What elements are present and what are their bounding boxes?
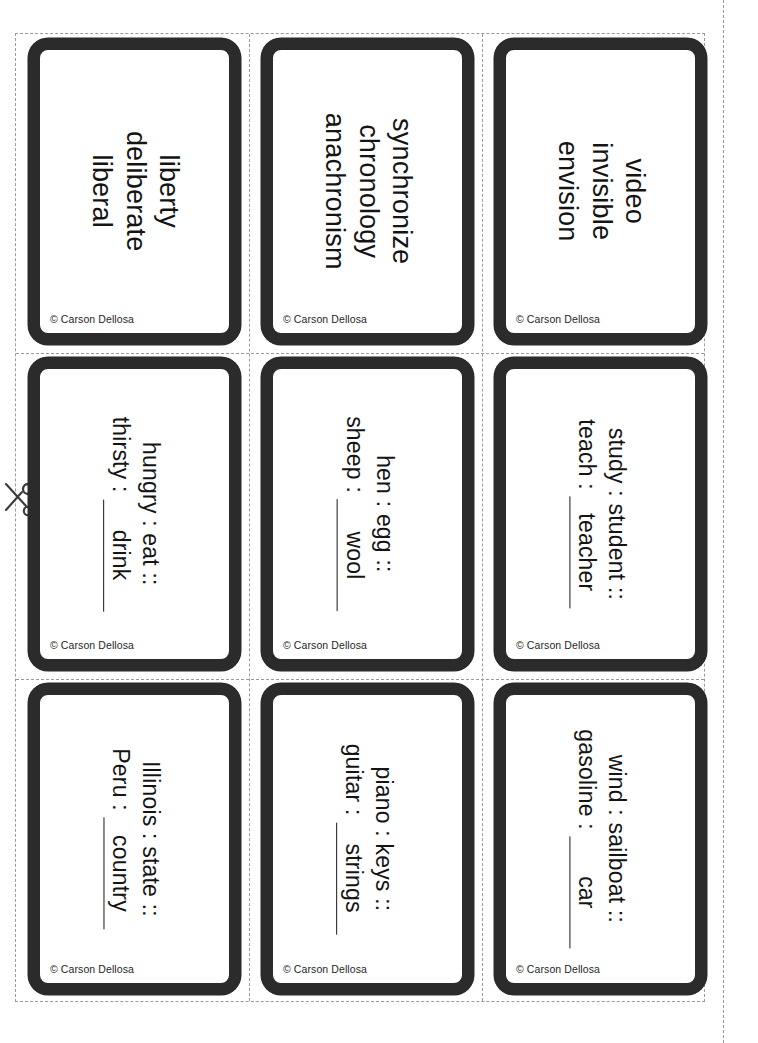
card-cell: liberty deliberate liberal © Carson Dell… bbox=[15, 33, 248, 352]
card-cell: synchronize chronology anachronism © Car… bbox=[248, 33, 481, 352]
analogy-prompt: gasoline : bbox=[575, 729, 601, 829]
flash-card-1[interactable]: liberty deliberate liberal © Carson Dell… bbox=[28, 38, 241, 345]
card-line: deliberate bbox=[118, 131, 151, 252]
analogy-line-1: study : student :: bbox=[602, 419, 632, 608]
copyright-credit: © Carson Dellosa bbox=[516, 313, 600, 325]
analogy-answer-blank[interactable]: teacher bbox=[570, 497, 602, 609]
analogy-answer-blank[interactable]: strings bbox=[337, 822, 369, 934]
flash-card-9[interactable]: wind : sailboat :: gasoline : car © Cars… bbox=[494, 683, 707, 995]
card-cell: hungry : eat :: thirsty : drink © Carson… bbox=[15, 352, 248, 678]
flash-card-sheet: liberty deliberate liberal © Carson Dell… bbox=[0, 0, 758, 1043]
analogy-line-2: Peru : country bbox=[104, 748, 136, 929]
analogy-line-2: guitar : strings bbox=[337, 744, 369, 935]
analogy-answer-blank[interactable]: drink bbox=[104, 499, 136, 611]
analogy-prompt: thirsty : bbox=[109, 417, 135, 493]
analogy-prompt: sheep : bbox=[342, 416, 368, 493]
card-line: video bbox=[617, 141, 650, 242]
card-text-block: video invisible envision bbox=[506, 50, 695, 333]
card-line: chronology bbox=[351, 113, 384, 270]
analogy-line-1: hungry : eat :: bbox=[136, 417, 166, 612]
copyright-credit: © Carson Dellosa bbox=[283, 313, 367, 325]
analogy-prompt: guitar : bbox=[342, 744, 368, 816]
card-cell: video invisible envision © Carson Dellos… bbox=[481, 33, 714, 352]
copyright-credit: © Carson Dellosa bbox=[516, 963, 600, 975]
card-text-block: hungry : eat :: thirsty : drink bbox=[40, 369, 229, 659]
copyright-credit: © Carson Dellosa bbox=[50, 313, 134, 325]
card-line: liberal bbox=[84, 131, 117, 252]
analogy-line-1: hen : egg :: bbox=[369, 416, 399, 611]
card-cell: wind : sailboat :: gasoline : car © Cars… bbox=[481, 678, 714, 1002]
margin-fold-line bbox=[723, 0, 724, 1043]
flash-card-7[interactable]: Illinois : state :: Peru : country © Car… bbox=[28, 683, 241, 995]
flash-card-8[interactable]: piano : keys :: guitar : strings © Carso… bbox=[261, 683, 474, 995]
card-cell: study : student :: teach : teacher © Car… bbox=[481, 352, 714, 678]
analogy-line-1: piano : keys :: bbox=[369, 744, 399, 935]
card-cell: hen : egg :: sheep : wool © Carson Dello… bbox=[248, 352, 481, 678]
flash-card-3[interactable]: video invisible envision © Carson Dellos… bbox=[494, 38, 707, 345]
analogy-answer-blank[interactable]: wool bbox=[337, 500, 369, 612]
card-text-block: hen : egg :: sheep : wool bbox=[273, 369, 462, 659]
card-cell: Illinois : state :: Peru : country © Car… bbox=[15, 678, 248, 1002]
analogy-line-2: gasoline : car bbox=[570, 729, 602, 948]
copyright-credit: © Carson Dellosa bbox=[516, 639, 600, 651]
analogy-line-2: teach : teacher bbox=[570, 419, 602, 608]
card-line: liberty bbox=[151, 131, 184, 252]
card-line: synchronize bbox=[384, 113, 417, 270]
card-cell: piano : keys :: guitar : strings © Carso… bbox=[248, 678, 481, 1002]
analogy-prompt: teach : bbox=[575, 419, 601, 489]
copyright-credit: © Carson Dellosa bbox=[50, 963, 134, 975]
analogy-line-1: Illinois : state :: bbox=[135, 748, 165, 929]
flash-card-4[interactable]: hungry : eat :: thirsty : drink © Carson… bbox=[28, 357, 241, 671]
card-text-block: wind : sailboat :: gasoline : car bbox=[506, 695, 695, 983]
card-text-block: liberty deliberate liberal bbox=[40, 50, 229, 333]
analogy-line-2: thirsty : drink bbox=[104, 417, 136, 612]
flash-card-2[interactable]: synchronize chronology anachronism © Car… bbox=[261, 38, 474, 345]
card-line: envision bbox=[550, 141, 583, 242]
card-text-block: synchronize chronology anachronism bbox=[273, 50, 462, 333]
copyright-credit: © Carson Dellosa bbox=[283, 639, 367, 651]
card-text-block: Illinois : state :: Peru : country bbox=[40, 695, 229, 983]
copyright-credit: © Carson Dellosa bbox=[283, 963, 367, 975]
flash-card-6[interactable]: study : student :: teach : teacher © Car… bbox=[494, 357, 707, 671]
analogy-prompt: Peru : bbox=[108, 748, 134, 811]
card-grid: liberty deliberate liberal © Carson Dell… bbox=[15, 33, 705, 1002]
copyright-credit: © Carson Dellosa bbox=[50, 639, 134, 651]
card-text-block: study : student :: teach : teacher bbox=[506, 369, 695, 659]
analogy-answer-blank[interactable]: car bbox=[570, 837, 602, 949]
analogy-line-2: sheep : wool bbox=[337, 416, 369, 611]
card-line: invisible bbox=[584, 141, 617, 242]
card-text-block: piano : keys :: guitar : strings bbox=[273, 695, 462, 983]
flash-card-5[interactable]: hen : egg :: sheep : wool © Carson Dello… bbox=[261, 357, 474, 671]
analogy-line-1: wind : sailboat :: bbox=[602, 729, 632, 948]
card-line: anachronism bbox=[317, 113, 350, 270]
analogy-answer-blank[interactable]: country bbox=[104, 818, 136, 930]
